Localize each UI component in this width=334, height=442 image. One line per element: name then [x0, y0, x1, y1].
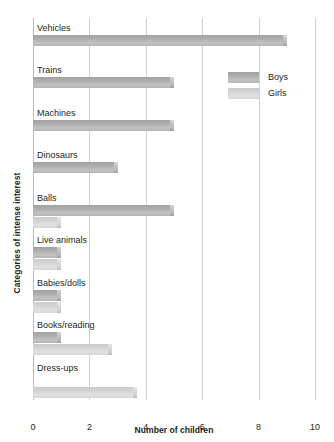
category-label: Dress-ups [37, 364, 78, 373]
legend-label: Girls [268, 89, 287, 98]
chart-legend: BoysGirls [228, 72, 324, 104]
bar-girls [33, 344, 112, 355]
bar-boys [33, 77, 174, 88]
category-group: Vehicles [33, 18, 315, 60]
bar-girls [33, 259, 61, 270]
category-label: Dinosaurs [37, 151, 78, 160]
category-label: Babies/dolls [37, 279, 86, 288]
bar-boys [33, 162, 118, 173]
bar-girls [33, 302, 61, 313]
category-group: Dinosaurs [33, 145, 315, 187]
legend-entry: Boys [228, 72, 324, 83]
category-group: Babies/dolls [33, 273, 315, 315]
bar-boys [33, 35, 287, 46]
category-group: Dress-ups [33, 358, 315, 400]
bar-girls [33, 387, 137, 398]
bar-boys [33, 205, 174, 216]
category-label: Machines [37, 109, 76, 118]
category-label: Live animals [37, 236, 87, 245]
category-label: Vehicles [37, 24, 71, 33]
category-label: Balls [37, 194, 57, 203]
legend-label: Boys [268, 73, 288, 82]
category-group: Balls [33, 188, 315, 230]
bar-chart: Categories of intense interest 0246810Ve… [0, 0, 334, 442]
category-group: Live animals [33, 230, 315, 272]
y-axis-title: Categories of intense interest [12, 143, 22, 323]
legend-swatch-boys [228, 72, 259, 83]
bar-girls [33, 217, 61, 228]
legend-swatch-girls [228, 88, 259, 99]
category-group: Machines [33, 103, 315, 145]
bar-boys [33, 247, 61, 258]
category-label: Trains [37, 66, 62, 75]
x-axis-title: Number of children [33, 425, 315, 435]
bar-boys [33, 332, 61, 343]
legend-entry: Girls [228, 88, 324, 99]
bar-boys [33, 120, 174, 131]
bar-boys [33, 290, 61, 301]
category-label: Books/reading [37, 321, 95, 330]
category-group: Books/reading [33, 315, 315, 357]
